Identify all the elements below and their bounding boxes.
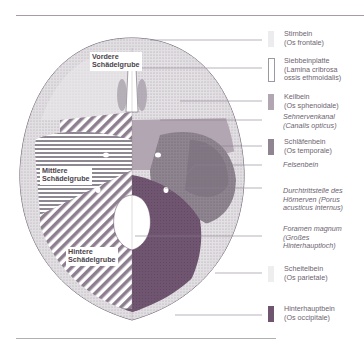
swatch-sphenoidale xyxy=(268,94,274,110)
fossa-label-vordere: Vordere Schädelgrube xyxy=(90,52,142,71)
fossa-label-line: Schädelgrube xyxy=(92,61,140,69)
legend-text: Hinterhauptbein(Os occipitale) xyxy=(284,305,364,322)
swatch-temporale xyxy=(268,139,274,155)
swatch-ethmoidalis xyxy=(268,58,275,82)
legend-text: Keilbein(Os sphenoidale) xyxy=(284,93,364,110)
legend-text: Durchtrittstelle desHörnerven (Porusacus… xyxy=(283,187,364,213)
swatch-frontale xyxy=(268,31,274,47)
bottom-rule xyxy=(16,338,276,339)
legend-text: Sehnervenkanal(Canalis opticus) xyxy=(283,113,364,130)
legend-text: Felsenbein xyxy=(283,161,364,170)
legend-text: Foramen magnum(GroßesHinterhauptloch) xyxy=(283,225,364,251)
swatch-parietale xyxy=(268,266,274,282)
fossa-label-line: Schädelgrube xyxy=(42,175,90,183)
swatch-occipitale xyxy=(268,306,274,322)
legend-text: Schläfenbein(Os temporale) xyxy=(284,138,364,155)
fossa-label-mittlere: Mittlere Schädelgrube xyxy=(40,166,92,185)
fossa-label-line: Schädelgrube xyxy=(68,256,116,264)
legend-text: Stirnbein(Os frontale) xyxy=(284,30,364,47)
fossa-label-hintere: Hintere Schädelgrube xyxy=(66,247,118,266)
legend-text: Scheitelbein(Os parietale) xyxy=(284,265,364,282)
legend-text: Siebbeinplatte(Lamina cribrosaossis ethm… xyxy=(284,57,364,83)
